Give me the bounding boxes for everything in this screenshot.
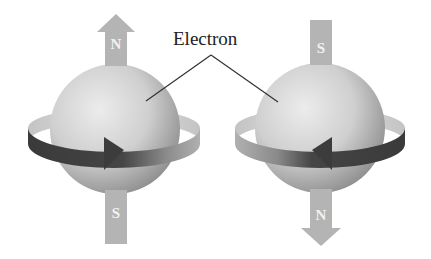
right-sphere — [255, 63, 385, 193]
right-bottom-pole-label: N — [311, 207, 331, 224]
electron-label: Electron — [173, 28, 237, 50]
left-sphere — [50, 64, 180, 194]
electron-spin-diagram: Electron N S S N — [0, 0, 431, 259]
left-bottom-pole-label: S — [106, 205, 126, 222]
left-top-pole-label: N — [106, 36, 126, 53]
right-top-pole-label: S — [311, 40, 331, 57]
